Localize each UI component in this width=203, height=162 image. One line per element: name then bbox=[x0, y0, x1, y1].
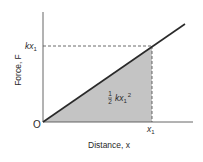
origin-label: O bbox=[33, 119, 41, 130]
x-axis-label: Distance, x bbox=[88, 140, 131, 150]
x1-tick-label: x1 bbox=[146, 124, 155, 135]
svg-text:1: 1 bbox=[108, 90, 112, 97]
force-distance-diagram: O kx1 x1 1 2 kx12 Distance, x Force, F bbox=[0, 0, 203, 162]
svg-text:2: 2 bbox=[108, 98, 112, 105]
y-axis-label: Force, F bbox=[13, 54, 23, 86]
kx1-tick-label: kx1 bbox=[25, 41, 38, 52]
